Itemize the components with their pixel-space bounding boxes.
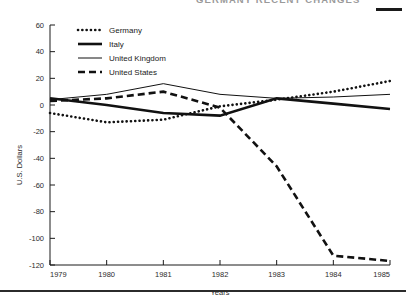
x-tick-label: 1980 bbox=[98, 270, 115, 279]
bottom-rule-mark bbox=[0, 290, 406, 292]
line-chart-plot: 6040200-20-40-60-80-100-120 197919801981… bbox=[0, 0, 406, 304]
y-tick-label: -120 bbox=[29, 261, 44, 270]
legend-label-united-kingdom: United Kingdom bbox=[109, 54, 166, 63]
y-tick-label: -100 bbox=[29, 234, 44, 243]
x-tick-label: 1984 bbox=[325, 270, 342, 279]
y-tick-label: -80 bbox=[33, 207, 44, 216]
data-series-group bbox=[50, 81, 390, 261]
y-tick-label: 20 bbox=[36, 74, 44, 83]
y-axis-label: U.S. Dollars bbox=[15, 145, 24, 185]
legend-label-germany: Germany bbox=[109, 26, 142, 35]
top-rule-mark bbox=[376, 8, 402, 11]
chart-figure: GERMANY RECENT CHANGES 6040200-20-40-60-… bbox=[0, 0, 406, 304]
series-line-united-states bbox=[50, 92, 390, 261]
y-tick-label: 60 bbox=[36, 21, 44, 30]
cut-off-title: GERMANY RECENT CHANGES bbox=[196, 0, 406, 3]
legend-label-united-states: United States bbox=[109, 68, 157, 77]
x-tick-label: 1983 bbox=[268, 270, 285, 279]
y-tick-label: 40 bbox=[36, 47, 44, 56]
y-tick-label: 0 bbox=[40, 101, 44, 110]
y-tick-label: -60 bbox=[33, 181, 44, 190]
x-tick-label: 1982 bbox=[212, 270, 229, 279]
x-axis-ticks: 1979198019811982198319841985 bbox=[50, 260, 390, 279]
x-tick-label: 1981 bbox=[155, 270, 172, 279]
y-axis-ticks: 6040200-20-40-60-80-100-120 bbox=[29, 21, 55, 270]
x-tick-label: 1985 bbox=[373, 270, 390, 279]
legend-label-italy: Italy bbox=[109, 40, 124, 49]
y-tick-label: -20 bbox=[33, 127, 44, 136]
x-tick-label: 1979 bbox=[50, 270, 67, 279]
y-tick-label: -40 bbox=[33, 154, 44, 163]
chart-legend: GermanyItalyUnited KingdomUnited States bbox=[78, 26, 166, 77]
